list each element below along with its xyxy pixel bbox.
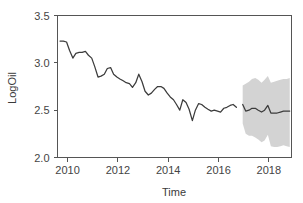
y-tick-label: 2.5: [34, 104, 49, 116]
chart-figure: 2.02.53.03.5 20102012201420162018 Time L…: [0, 0, 303, 203]
x-tick-label: 2010: [55, 164, 79, 176]
y-tick-label: 2.0: [34, 152, 49, 164]
x-tick-label: 2014: [156, 164, 180, 176]
x-tick-label: 2012: [106, 164, 130, 176]
x-tick-label: 2016: [206, 164, 230, 176]
x-tick-label: 2018: [257, 164, 281, 176]
y-tick-label: 3.5: [34, 10, 49, 22]
x-axis-title: Time: [162, 186, 186, 198]
logoil-time-series-chart: 2.02.53.03.5 20102012201420162018 Time L…: [0, 0, 303, 203]
y-axis-title: LogOil: [6, 72, 18, 104]
y-tick-label: 3.0: [34, 57, 49, 69]
